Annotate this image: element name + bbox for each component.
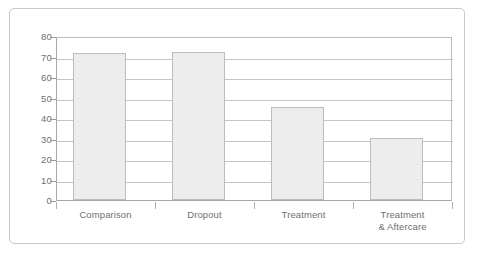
- x-tick-mark-2: [254, 202, 255, 209]
- y-tick-label-10: 10: [26, 176, 52, 186]
- bar-dropout: [172, 52, 225, 200]
- y-tick-label-0: 0: [26, 196, 52, 206]
- x-tick-mark-3: [353, 202, 354, 209]
- figure-container: 80 70 60 50 40 30 20 10 0 Compari: [0, 0, 477, 254]
- x-tick-mark-0: [56, 202, 57, 209]
- y-tick-label-70: 70: [26, 53, 52, 63]
- x-axis-label-treatment: Treatment: [254, 209, 353, 221]
- bar-treatment: [271, 107, 324, 200]
- y-tick-label-50: 50: [26, 94, 52, 104]
- x-axis-label-comparison: Comparison: [56, 209, 155, 221]
- y-tick-label-30: 30: [26, 135, 52, 145]
- bar-treatment-aftercare: [370, 138, 423, 201]
- y-tick-label-60: 60: [26, 73, 52, 83]
- x-axis-label-dropout: Dropout: [155, 209, 254, 221]
- y-tick-label-80: 80: [26, 32, 52, 42]
- x-axis-label-comparison-line1: Comparison: [56, 209, 155, 221]
- y-tick-label-40: 40: [26, 114, 52, 124]
- x-axis-label-treatment-aftercare-line2: & Aftercare: [353, 221, 452, 233]
- bar-comparison: [73, 53, 126, 200]
- x-axis-label-treatment-aftercare-line1: Treatment: [353, 209, 452, 221]
- x-tick-mark-1: [155, 202, 156, 209]
- x-axis-label-treatment-aftercare: Treatment & Aftercare: [353, 209, 452, 233]
- x-axis-label-dropout-line1: Dropout: [155, 209, 254, 221]
- x-axis-label-treatment-line1: Treatment: [254, 209, 353, 221]
- y-axis: 80 70 60 50 40 30 20 10 0: [24, 0, 52, 254]
- plot-area: [56, 37, 452, 201]
- y-tick-label-20: 20: [26, 155, 52, 165]
- x-tick-mark-4: [452, 202, 453, 209]
